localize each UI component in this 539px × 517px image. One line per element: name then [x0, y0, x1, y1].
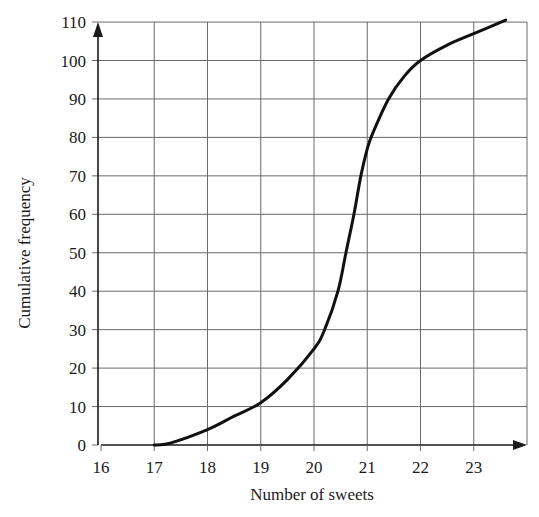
x-tick-label: 18 — [199, 458, 216, 477]
axes — [93, 22, 527, 450]
y-tick-label: 60 — [69, 205, 86, 224]
vertical-gridlines — [154, 22, 527, 445]
x-tick-label: 22 — [412, 458, 429, 477]
y-tick-label: 110 — [61, 13, 86, 32]
y-tick-label: 80 — [69, 128, 86, 147]
y-tick-label: 30 — [69, 321, 86, 340]
y-tick-label: 70 — [69, 167, 86, 186]
x-tick-labels: 1617181920212223 — [93, 445, 483, 477]
y-tick-label: 40 — [69, 282, 86, 301]
y-tick-label: 0 — [78, 436, 87, 455]
y-axis-arrow-icon — [93, 22, 103, 37]
horizontal-gridlines — [92, 22, 527, 445]
y-tick-label: 50 — [69, 244, 86, 263]
x-tick-label: 21 — [359, 458, 376, 477]
cumulative-frequency-curve — [154, 20, 505, 445]
x-axis-arrow-icon — [513, 440, 527, 450]
y-tick-label: 100 — [61, 52, 87, 71]
x-tick-label: 17 — [146, 458, 164, 477]
cumulative-frequency-chart: 1617181920212223 01020304050607080901001… — [0, 0, 539, 517]
x-tick-label: 16 — [93, 458, 110, 477]
y-tick-labels: 0102030405060708090100110 — [61, 13, 87, 455]
x-tick-label: 23 — [465, 458, 482, 477]
y-tick-label: 10 — [69, 398, 86, 417]
x-tick-label: 19 — [252, 458, 269, 477]
y-axis-title: Cumulative frequency — [15, 177, 34, 329]
y-tick-label: 90 — [69, 90, 86, 109]
y-tick-label: 20 — [69, 359, 86, 378]
x-tick-label: 20 — [306, 458, 323, 477]
x-axis-title: Number of sweets — [250, 485, 374, 504]
